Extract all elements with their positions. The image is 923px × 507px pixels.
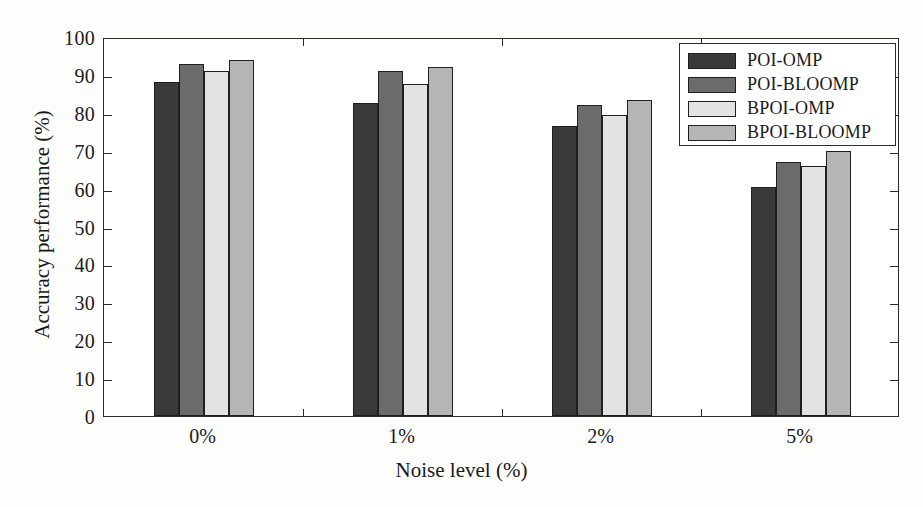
legend-label: BPOI-OMP (747, 98, 835, 119)
plot-area: POI-OMPPOI-BLOOMPBPOI-OMPBPOI-BLOOMP (103, 38, 899, 417)
legend-item: POI-BLOOMP (688, 73, 895, 96)
bar (378, 71, 403, 416)
y-tick-mark (104, 380, 112, 381)
x-axis-title: Noise level (%) (0, 458, 923, 483)
y-tick-label: 70 (74, 140, 95, 163)
bar (403, 84, 428, 416)
y-tick-mark (104, 229, 112, 230)
bar (179, 64, 204, 416)
bar (229, 60, 254, 416)
y-tick-mark (890, 229, 898, 230)
x-tick-mark (303, 39, 304, 46)
y-tick-label: 10 (74, 368, 95, 391)
legend-swatch (688, 101, 736, 117)
x-tick-mark (701, 409, 702, 416)
x-tick-mark (502, 39, 503, 46)
y-tick-label: 80 (74, 102, 95, 125)
y-tick-mark (890, 153, 898, 154)
legend-label: POI-OMP (747, 50, 822, 71)
bar (552, 126, 577, 416)
y-tick-mark (890, 266, 898, 267)
bar (627, 100, 652, 416)
legend-label: BPOI-BLOOMP (747, 122, 871, 143)
y-tick-label: 50 (74, 216, 95, 239)
y-tick-label: 20 (74, 330, 95, 353)
bar (204, 71, 229, 416)
y-tick-mark (104, 153, 112, 154)
legend-swatch (688, 125, 736, 141)
bar (577, 105, 602, 416)
legend-item: POI-OMP (688, 49, 895, 72)
bar (154, 82, 179, 416)
y-tick-mark (890, 304, 898, 305)
y-tick-mark (890, 380, 898, 381)
chart-legend: POI-OMPPOI-BLOOMPBPOI-OMPBPOI-BLOOMP (679, 43, 896, 146)
legend-item: BPOI-BLOOMP (688, 121, 895, 144)
legend-swatch (688, 53, 736, 69)
x-tick-label: 2% (587, 425, 614, 448)
y-tick-label: 100 (64, 27, 95, 50)
x-tick-label: 0% (189, 425, 216, 448)
legend-item: BPOI-OMP (688, 97, 895, 120)
x-tick-mark (502, 409, 503, 416)
chart-figure: Accuracy performance (%) Noise level (%)… (0, 0, 923, 507)
y-tick-mark (104, 304, 112, 305)
y-tick-mark (890, 342, 898, 343)
bar (751, 187, 776, 416)
bar (428, 67, 453, 416)
y-tick-label: 60 (74, 178, 95, 201)
y-axis-tick-labels: 0102030405060708090100 (40, 38, 95, 417)
legend-label: POI-BLOOMP (747, 74, 859, 95)
bar (826, 151, 851, 416)
y-tick-label: 30 (74, 292, 95, 315)
y-tick-mark (104, 115, 112, 116)
y-tick-label: 0 (85, 406, 95, 429)
x-tick-mark (303, 409, 304, 416)
y-tick-mark (104, 77, 112, 78)
legend-swatch (688, 77, 736, 93)
y-tick-mark (104, 266, 112, 267)
bar (353, 103, 378, 416)
y-tick-mark (104, 191, 112, 192)
y-tick-mark (890, 191, 898, 192)
x-axis-tick-labels: 0%1%2%5% (103, 417, 899, 457)
x-tick-label: 5% (786, 425, 813, 448)
y-tick-label: 90 (74, 64, 95, 87)
bar (602, 115, 627, 416)
bar (801, 166, 826, 416)
x-tick-label: 1% (388, 425, 415, 448)
y-tick-mark (104, 342, 112, 343)
bar (776, 162, 801, 416)
y-tick-label: 40 (74, 254, 95, 277)
